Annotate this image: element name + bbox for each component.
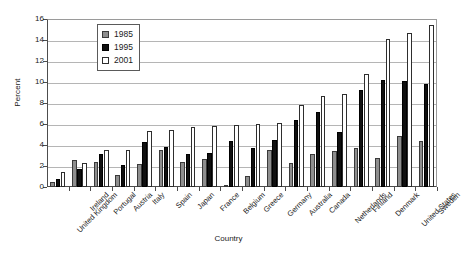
chart-legend: 198519952001 [97,24,140,71]
x-tick-mark [285,187,286,191]
x-tick-mark [90,187,91,191]
gray-square-icon [102,31,109,38]
black-square-icon [102,44,109,51]
x-tick-mark [177,187,178,191]
x-tick-mark [220,187,221,191]
x-tick-mark [155,187,156,191]
x-tick-mark [134,187,135,191]
x-tick-mark [372,187,373,191]
x-tick-mark [242,187,243,191]
x-axis-title: Country [0,234,457,243]
x-tick-mark [394,187,395,191]
legend-label: 2001 [114,56,133,65]
x-tick-label: Finland [371,191,394,214]
x-tick-label: France [219,191,241,213]
legend-label: 1985 [114,30,133,39]
legend-item: 1995 [102,41,133,54]
legend-item: 2001 [102,54,133,67]
legend-label: 1995 [114,43,133,52]
x-tick-mark [264,187,265,191]
x-tick-mark [307,187,308,191]
x-tick-mark [329,187,330,191]
x-tick-label: Belgium [242,191,267,216]
x-tick-mark [69,187,70,191]
x-tick-mark [350,187,351,191]
x-tick-mark [437,187,438,191]
x-tick-label: Spain [174,191,193,210]
legend-item: 1985 [102,28,133,41]
x-tick-mark [112,187,113,191]
x-tick-label: Greece [263,191,286,214]
white-square-icon [102,57,109,64]
x-tick-label: Japan [196,191,216,211]
x-tick-label: Italy [151,191,166,206]
x-tick-mark [199,187,200,191]
x-tick-label: Denmark [394,191,421,218]
x-tick-label: Sweden [437,191,462,216]
x-tick-mark [415,187,416,191]
